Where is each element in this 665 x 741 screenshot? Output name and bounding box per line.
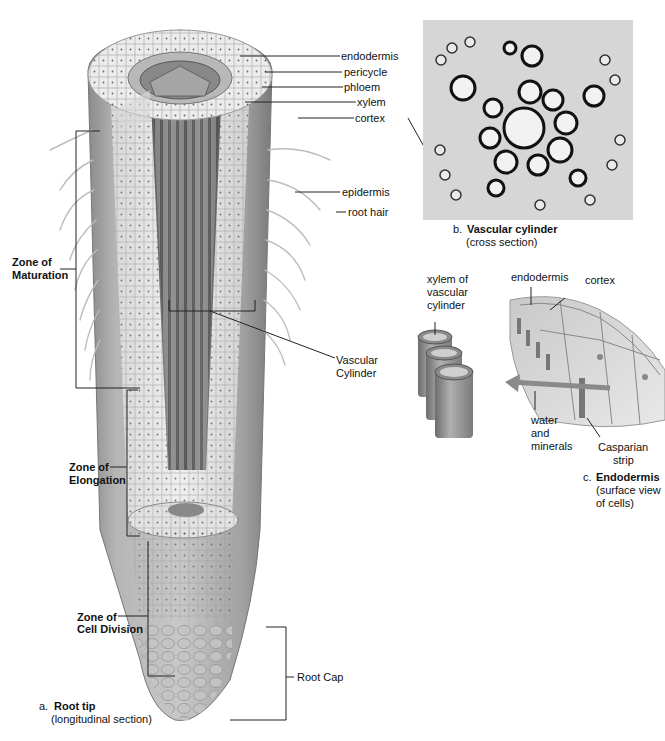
label-vascular-cylinder-line2: Cylinder (336, 367, 376, 380)
zone-maturation-line1: Zone of (12, 256, 52, 269)
label-c-cortex: cortex (585, 274, 615, 287)
caption-a-title: Root tip (54, 700, 96, 713)
label-root-hair: root hair (348, 206, 388, 219)
label-water-line1: water (531, 414, 558, 427)
label-xylem-of-vascular-line2: vascular (427, 286, 468, 299)
label-water-line2: and (531, 427, 549, 440)
zone-elongation-line1: Zone of (69, 461, 109, 474)
label-xylem-of-vascular-line3: cylinder (427, 299, 465, 312)
caption-b-letter: b. (453, 223, 462, 236)
zone-maturation-line2: Maturation (12, 269, 68, 282)
label-xylem-of-vascular-line1: xylem of (427, 273, 468, 286)
label-casparian-line1: Casparian (598, 441, 648, 454)
caption-c-subtitle-line2: of cells) (596, 497, 634, 510)
endodermis-block-illustration (505, 297, 665, 427)
label-vascular-cylinder-line1: Vascular (336, 354, 378, 367)
caption-a-subtitle: (longitudinal section) (51, 713, 152, 726)
vascular-cylinder-micrograph (423, 20, 633, 220)
label-cortex: cortex (355, 112, 385, 125)
label-casparian-line2: strip (613, 454, 634, 467)
caption-b-title: Vascular cylinder (467, 223, 558, 236)
label-epidermis: epidermis (342, 186, 390, 199)
caption-b-subtitle: (cross section) (466, 236, 538, 249)
xylem-tubes-illustration (418, 330, 473, 438)
label-endodermis: endodermis (341, 50, 398, 63)
label-root-cap: Root Cap (297, 671, 343, 684)
label-xylem: xylem (357, 96, 386, 109)
label-phloem: phloem (344, 81, 380, 94)
caption-c-letter: c. (583, 471, 592, 484)
caption-a-letter: a. (39, 700, 48, 713)
zone-cell-division-line2: Cell Division (77, 623, 143, 636)
label-c-endodermis: endodermis (511, 271, 568, 284)
label-pericycle: pericycle (344, 66, 387, 79)
caption-c-subtitle-line1: (surface view (596, 484, 661, 497)
zone-elongation-line2: Elongation (69, 474, 126, 487)
label-water-line3: minerals (531, 440, 573, 453)
caption-c-title: Endodermis (596, 471, 660, 484)
